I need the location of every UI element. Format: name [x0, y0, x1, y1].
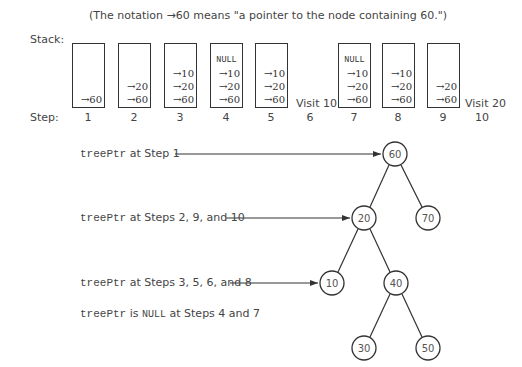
pointer-text: at Step 1 [126, 147, 180, 160]
binary-tree-diagram: 60 20 70 10 40 30 50 [0, 0, 522, 367]
node-label: 60 [389, 149, 402, 160]
var-name: treePtr [80, 148, 126, 160]
var-name: treePtr [80, 277, 126, 289]
node-label: 70 [422, 213, 435, 224]
pointer-label-steps-3-5-6-8: treePtr at Steps 3, 5, 6, and 8 [80, 276, 252, 289]
pointer-text: at Steps 3, 5, 6, and 8 [126, 276, 252, 289]
pointer-label-steps-2-9-10: treePtr at Steps 2, 9, and 10 [80, 211, 245, 224]
node-label: 20 [358, 213, 371, 224]
node-label: 40 [390, 278, 403, 289]
node-label: 30 [358, 343, 371, 354]
node-label: 10 [326, 278, 339, 289]
tree-edges [338, 165, 422, 337]
var-name: treePtr [80, 308, 126, 320]
var-name: treePtr [80, 212, 126, 224]
pointer-label-step-1: treePtr at Step 1 [80, 147, 180, 160]
null-note-mid: is [126, 307, 142, 320]
null-keyword: NULL [142, 309, 166, 320]
null-note-tail: at Steps 4 and 7 [166, 307, 260, 320]
null-note: treePtr is NULL at Steps 4 and 7 [80, 307, 260, 320]
pointer-text: at Steps 2, 9, and 10 [126, 211, 245, 224]
node-label: 50 [422, 343, 435, 354]
